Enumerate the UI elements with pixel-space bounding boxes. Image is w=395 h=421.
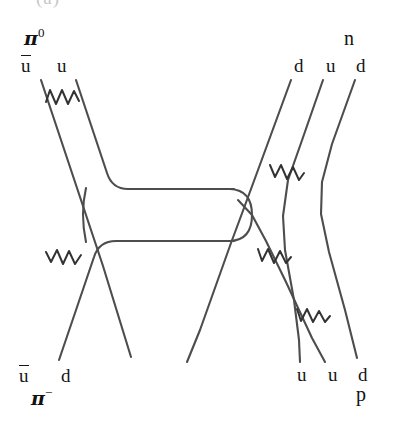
pim-ubar-text: u xyxy=(19,366,29,385)
n-d2-text: d xyxy=(356,55,366,76)
label-n-d2: d xyxy=(356,56,366,75)
label-neutron: n xyxy=(344,28,354,48)
label-proton: p xyxy=(356,384,366,404)
label-p-u2: u xyxy=(328,365,338,384)
line-pi0-ubar-to-pim-ubar xyxy=(41,80,131,357)
p-u1-text: u xyxy=(297,364,307,385)
label-p-u1: u xyxy=(297,365,307,384)
label-pi-zero: π0 xyxy=(24,26,44,48)
n-u-text: u xyxy=(326,55,336,76)
gluon-top-right-icon xyxy=(270,165,304,180)
line-p-u1-to-n-d1 xyxy=(187,80,291,362)
pi0-u-text: u xyxy=(57,55,67,76)
p-u2-text: u xyxy=(328,364,338,385)
neutron-text: n xyxy=(344,27,354,49)
proton-text: p xyxy=(356,383,366,405)
label-pim-d: d xyxy=(61,366,71,385)
label-p-d: d xyxy=(358,365,368,384)
pi0-ubar-text: u xyxy=(21,56,31,75)
pim-d-text: d xyxy=(61,365,71,386)
gluon-top-left-icon xyxy=(46,90,79,104)
p-d-text: d xyxy=(358,364,368,385)
label-pi0-u: u xyxy=(57,56,67,75)
pi-zero-superscript: 0 xyxy=(38,25,45,40)
quark-line-diagram: (a) .qline { fill: none; stroke: #4d4d4d… xyxy=(0,0,395,421)
line-p-d-to-n-d2 xyxy=(321,80,357,358)
pi-minus-superscript: − xyxy=(45,385,52,400)
label-pi0-ubar: u xyxy=(21,56,31,75)
gluon-bottom-left-icon xyxy=(46,250,81,264)
n-d1-text: d xyxy=(294,55,304,76)
pi-minus-symbol: π xyxy=(31,387,45,409)
line-exchange-bottom-to-pim-d xyxy=(59,241,234,360)
line-pi0-u-to-exchange-top xyxy=(76,80,234,189)
label-pi-minus: π− xyxy=(31,386,52,408)
label-n-u: u xyxy=(326,56,336,75)
pi-zero-symbol: π xyxy=(24,27,38,49)
label-n-d1: d xyxy=(294,56,304,75)
label-pim-ubar: u xyxy=(19,366,29,385)
